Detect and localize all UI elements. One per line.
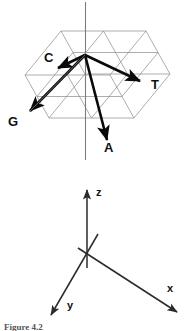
figure-container: C T G A z x y Figure 4.2 xyxy=(0,0,185,331)
label-A: A xyxy=(104,140,114,155)
label-y: y xyxy=(67,299,74,311)
label-x: x xyxy=(167,282,174,294)
figure-background xyxy=(0,0,185,331)
label-T: T xyxy=(151,77,159,92)
figure-svg: C T G A z x y Figure 4.2 xyxy=(0,0,185,331)
label-G: G xyxy=(8,114,18,129)
label-z: z xyxy=(96,186,102,198)
figure-caption: Figure 4.2 xyxy=(4,322,43,331)
caption-label: Figure 4.2 xyxy=(4,322,43,331)
label-C: C xyxy=(44,50,54,65)
